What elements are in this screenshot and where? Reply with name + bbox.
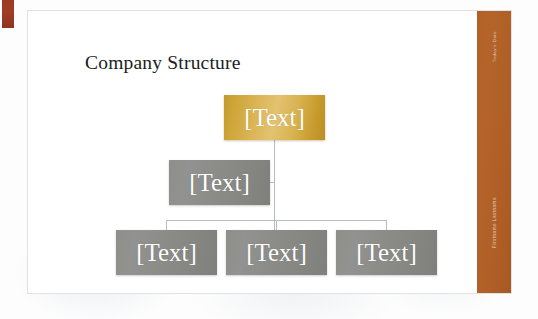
connector-assistant — [270, 182, 275, 183]
connector-drop-2 — [276, 220, 277, 230]
red-edge-marker — [2, 0, 14, 28]
org-node-assistant[interactable]: [Text] — [169, 160, 270, 205]
slide-canvas: Company Structure [Text] [Text] [Text] [… — [27, 10, 512, 294]
org-node-child-1[interactable]: [Text] — [116, 230, 217, 275]
org-node-child-2[interactable]: [Text] — [226, 230, 327, 275]
slide-sidebar: Today's Date Firstname Lastname — [477, 11, 511, 293]
sidebar-author-label: Firstname Lastname — [492, 197, 497, 248]
sidebar-date-label: Today's Date — [492, 31, 497, 62]
connector-drop-1 — [166, 220, 167, 230]
connector-trunk — [274, 140, 275, 230]
connector-drop-3 — [386, 220, 387, 230]
org-node-child-3[interactable]: [Text] — [336, 230, 437, 275]
scanned-page: Company Structure [Text] [Text] [Text] [… — [0, 0, 538, 319]
org-chart: [Text] [Text] [Text] [Text] [Text] — [28, 11, 511, 293]
org-node-root[interactable]: [Text] — [224, 95, 325, 140]
